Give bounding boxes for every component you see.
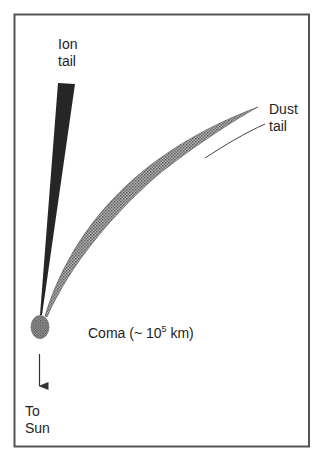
ion-tail bbox=[40, 83, 75, 315]
to-sun-label-line1: To bbox=[25, 403, 50, 420]
coma-label-suffix: km) bbox=[167, 325, 194, 341]
coma bbox=[31, 316, 49, 339]
to-sun-label: To Sun bbox=[25, 403, 50, 437]
comet-diagram bbox=[0, 0, 324, 458]
frame bbox=[15, 15, 310, 447]
dust-tail-label-line1: Dust bbox=[269, 101, 298, 118]
to-sun-label-line2: Sun bbox=[25, 420, 50, 437]
dust-tail-label-line2: tail bbox=[269, 118, 298, 135]
ion-tail-label-line2: tail bbox=[58, 53, 77, 70]
coma-label-exponent: 5 bbox=[162, 324, 167, 334]
dust-tail bbox=[45, 107, 258, 317]
dust-tail-label: Dust tail bbox=[269, 101, 298, 135]
ion-tail-label: Ion tail bbox=[58, 36, 77, 70]
ion-tail-label-line1: Ion bbox=[58, 36, 77, 53]
coma-label-prefix: Coma (~ 10 bbox=[88, 325, 162, 341]
coma-label: Coma (~ 105 km) bbox=[88, 325, 194, 342]
